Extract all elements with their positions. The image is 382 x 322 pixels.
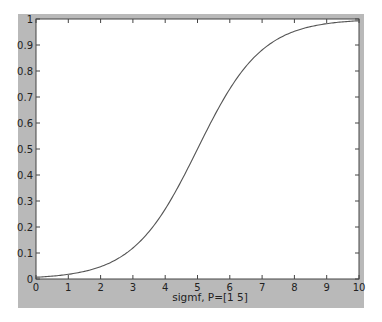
x-axis-label: sigmf, P=[1 5] [172, 291, 248, 303]
x-tick-label: 2 [97, 282, 103, 293]
chart-plot: 01234567891000.10.20.30.40.50.60.70.80.9… [0, 0, 382, 322]
y-tick-label: 0.7 [17, 92, 33, 103]
y-tick-label: 0.2 [17, 222, 33, 233]
x-tick-label: 1 [65, 282, 71, 293]
y-tick-label: 1 [27, 14, 33, 25]
x-tick-label: 10 [353, 282, 366, 293]
y-tick-label: 0.8 [17, 66, 33, 77]
x-tick-label: 0 [33, 282, 39, 293]
x-tick-label: 4 [162, 282, 168, 293]
y-tick-label: 0.6 [17, 118, 33, 129]
y-tick-label: 0 [27, 274, 33, 285]
y-tick-label: 0.9 [17, 40, 33, 51]
x-tick-label: 3 [130, 282, 136, 293]
y-tick-label: 0.4 [17, 170, 33, 181]
y-tick-label: 0.3 [17, 196, 33, 207]
y-tick-label: 0.1 [17, 248, 33, 259]
x-tick-label: 8 [291, 282, 297, 293]
x-tick-label: 9 [324, 282, 330, 293]
x-tick-label: 7 [259, 282, 265, 293]
y-tick-label: 0.5 [17, 144, 33, 155]
